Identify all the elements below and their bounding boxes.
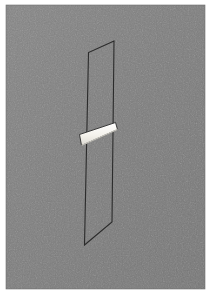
artwork-root: Untitled geometric composition Slanted o… [0,0,213,298]
gray-field [6,5,205,289]
gray-field-group [6,5,205,289]
artwork-canvas [0,0,213,298]
